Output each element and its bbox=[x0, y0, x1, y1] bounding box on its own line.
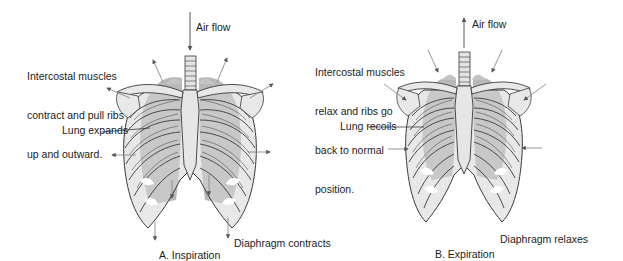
label-line: Diaphragm contracts bbox=[234, 237, 331, 250]
label-line: Intercostal muscles bbox=[315, 66, 405, 79]
label-line: Diaphragm relaxes bbox=[500, 233, 592, 246]
lung-expands-label: Lung expands bbox=[62, 124, 128, 137]
trachea bbox=[459, 52, 470, 86]
inspiration-diaphragm-label: Diaphragm contracts and moves down and o… bbox=[234, 211, 331, 261]
caption-expiration: B. Expiration bbox=[435, 248, 495, 260]
label-line: back to normal bbox=[315, 144, 405, 157]
inspiration-air-flow-label: Air flow bbox=[196, 21, 230, 34]
label-line: position. bbox=[315, 183, 405, 196]
label-line: up and outward. bbox=[27, 148, 124, 161]
expiration-air-flow-label: Air flow bbox=[472, 18, 506, 31]
label-line: Intercostal muscles bbox=[27, 70, 124, 83]
label-line: contract and pull ribs bbox=[27, 109, 124, 122]
caption-inspiration: A. Inspiration bbox=[159, 249, 220, 261]
lung-recoils-label: Lung recoils bbox=[340, 120, 397, 133]
inspiration-intercostal-label: Intercostal muscles contract and pull ri… bbox=[27, 44, 124, 174]
label-line: relax and ribs go bbox=[315, 105, 405, 118]
trachea bbox=[185, 56, 196, 90]
expiration-diaphragm-label: Diaphragm relaxes and moves upward. bbox=[500, 207, 592, 261]
